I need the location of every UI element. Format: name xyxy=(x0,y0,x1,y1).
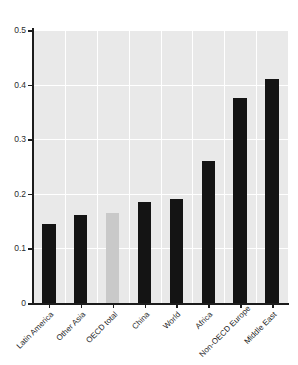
bar xyxy=(170,199,183,303)
bar xyxy=(106,213,119,303)
chart-title xyxy=(0,0,298,2)
x-axis-tick xyxy=(81,304,83,308)
y-axis-label: 0.4 xyxy=(2,81,26,89)
gridline-vertical xyxy=(129,30,130,303)
gridline-vertical xyxy=(97,30,98,303)
y-axis-tick xyxy=(28,248,33,250)
bar xyxy=(74,215,87,303)
bar xyxy=(233,98,246,303)
bar xyxy=(42,224,55,303)
bar xyxy=(265,79,278,303)
gridline-vertical xyxy=(224,30,225,303)
gridline-vertical xyxy=(192,30,193,303)
gridline-vertical xyxy=(161,30,162,303)
x-axis-tick xyxy=(145,304,147,308)
y-axis-tick xyxy=(28,85,33,87)
x-axis-tick xyxy=(49,304,51,308)
y-axis-tick xyxy=(28,194,33,196)
gridline-vertical xyxy=(256,30,257,303)
x-axis-line xyxy=(32,303,289,305)
bar-chart: 00.10.20.30.40.5 Latin AmericaOther Asia… xyxy=(0,0,298,365)
y-axis-tick xyxy=(28,139,33,141)
y-axis-label: 0.1 xyxy=(2,244,26,252)
x-axis-tick xyxy=(272,304,274,308)
y-axis-tick xyxy=(28,303,33,305)
bar xyxy=(138,202,151,303)
x-axis-tick xyxy=(176,304,178,308)
y-axis-label: 0.2 xyxy=(2,190,26,198)
gridline-vertical xyxy=(65,30,66,303)
plot-area xyxy=(33,30,288,303)
y-axis-label: 0.3 xyxy=(2,135,26,143)
bar xyxy=(202,161,215,303)
y-axis-tick xyxy=(28,30,33,32)
x-axis-tick xyxy=(113,304,115,308)
y-axis-label: 0.5 xyxy=(2,26,26,34)
x-axis-tick xyxy=(208,304,210,308)
y-axis-line xyxy=(32,28,34,305)
y-axis-label: 0 xyxy=(2,299,26,307)
